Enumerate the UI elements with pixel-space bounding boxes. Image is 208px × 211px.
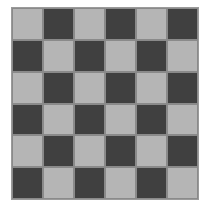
dark-square[interactable]	[136, 104, 167, 136]
light-square[interactable]	[167, 40, 198, 72]
dark-square[interactable]	[136, 167, 167, 199]
dark-square[interactable]	[167, 8, 198, 40]
light-square[interactable]	[105, 104, 136, 136]
dark-square[interactable]	[105, 8, 136, 40]
light-square[interactable]	[12, 135, 43, 167]
light-square[interactable]	[167, 104, 198, 136]
dark-square[interactable]	[74, 104, 105, 136]
light-square[interactable]	[136, 72, 167, 104]
light-square[interactable]	[167, 167, 198, 199]
dark-square[interactable]	[43, 8, 74, 40]
light-square[interactable]	[12, 8, 43, 40]
light-square[interactable]	[43, 40, 74, 72]
dark-square[interactable]	[74, 40, 105, 72]
light-square[interactable]	[43, 104, 74, 136]
light-square[interactable]	[43, 167, 74, 199]
light-square[interactable]	[136, 8, 167, 40]
light-square[interactable]	[105, 167, 136, 199]
dark-square[interactable]	[43, 135, 74, 167]
light-square[interactable]	[12, 72, 43, 104]
light-square[interactable]	[136, 135, 167, 167]
dark-square[interactable]	[136, 40, 167, 72]
dark-square[interactable]	[74, 167, 105, 199]
dark-square[interactable]	[167, 135, 198, 167]
dark-square[interactable]	[12, 40, 43, 72]
light-square[interactable]	[74, 72, 105, 104]
light-square[interactable]	[74, 135, 105, 167]
dark-square[interactable]	[12, 167, 43, 199]
dark-square[interactable]	[43, 72, 74, 104]
light-square[interactable]	[105, 40, 136, 72]
checkerboard	[12, 8, 198, 199]
dark-square[interactable]	[105, 72, 136, 104]
dark-square[interactable]	[167, 72, 198, 104]
light-square[interactable]	[74, 8, 105, 40]
dark-square[interactable]	[12, 104, 43, 136]
dark-square[interactable]	[105, 135, 136, 167]
